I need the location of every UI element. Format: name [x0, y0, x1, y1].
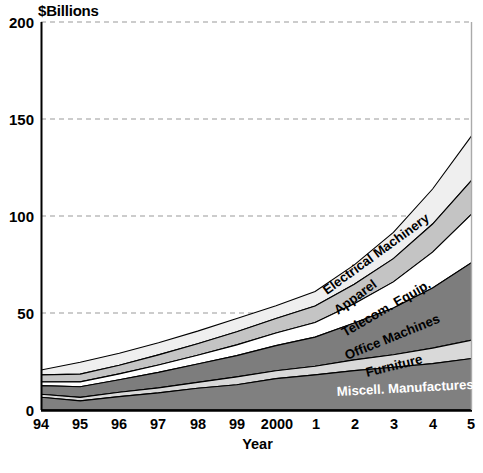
x-tick-2: 2	[351, 417, 359, 432]
x-tick-97: 97	[150, 417, 166, 432]
plot-canvas: Electrical Machinery Apparel Telecom. Eq…	[0, 0, 483, 473]
x-tick-5: 5	[467, 417, 475, 432]
x-tick-99: 99	[229, 417, 245, 432]
x-axis-title-wrapper: Year	[0, 436, 483, 452]
x-tick-94: 94	[33, 417, 49, 432]
x-tick-4: 4	[429, 417, 437, 432]
x-tick-3: 3	[390, 417, 398, 432]
x-axis-title: Year	[242, 436, 273, 452]
x-tick-95: 95	[72, 417, 88, 432]
x-tick-96: 96	[111, 417, 127, 432]
x-tick-2000: 2000	[261, 417, 293, 432]
stacked-area-chart: $Billions 200 150 100 50 0	[0, 0, 483, 473]
x-tick-1: 1	[312, 417, 320, 432]
x-tick-98: 98	[190, 417, 206, 432]
